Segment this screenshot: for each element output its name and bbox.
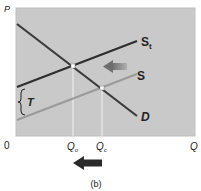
- quantity-decrease-arrow-icon: [73, 156, 102, 170]
- equilibrium-point-qc: [100, 86, 104, 90]
- chart: T St S D P Q 0 Qo Qc (b): [0, 0, 201, 191]
- plot-area: [16, 8, 195, 136]
- tick-qc: Qc: [96, 141, 107, 153]
- origin-label: 0: [4, 140, 10, 151]
- supply-label: S: [137, 69, 145, 83]
- equilibrium-point-qo: [71, 64, 75, 68]
- demand-label: D: [141, 110, 150, 124]
- y-axis-label: P: [4, 4, 10, 14]
- x-axis-label: Q: [190, 141, 198, 152]
- figure-caption: (b): [91, 179, 102, 189]
- tick-qo: Qo: [67, 141, 79, 153]
